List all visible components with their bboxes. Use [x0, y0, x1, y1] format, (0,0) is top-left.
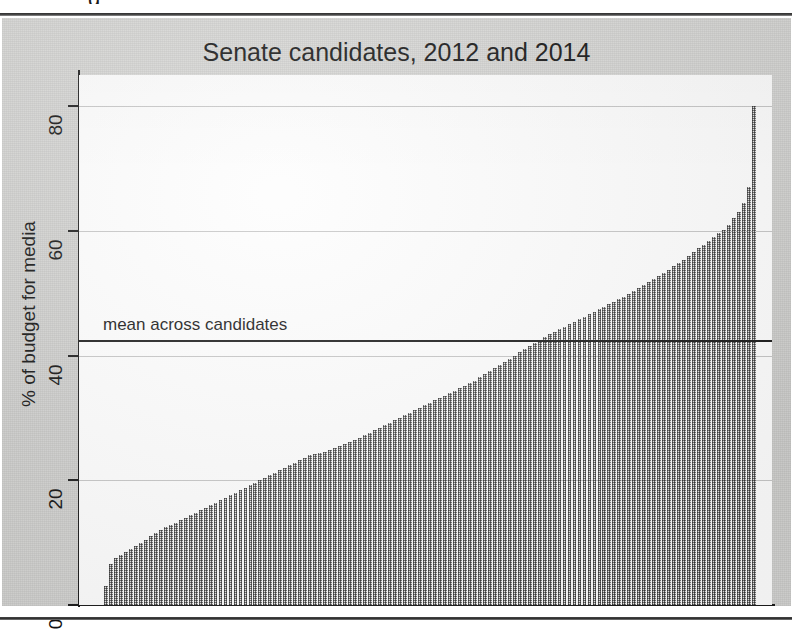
bar [513, 356, 517, 605]
bar [278, 470, 282, 605]
bar [164, 527, 168, 605]
bar [543, 337, 547, 605]
y-tick-60 [68, 230, 79, 232]
bar [333, 448, 337, 605]
bar [288, 465, 292, 605]
bar [637, 288, 641, 605]
bar [303, 458, 307, 605]
bar [622, 297, 626, 605]
bar [458, 388, 462, 605]
bar [548, 334, 552, 605]
bar [134, 546, 138, 605]
bar [468, 383, 472, 605]
bar [263, 478, 267, 605]
clipped-header-fragment: g [88, 0, 101, 4]
bar [328, 450, 332, 605]
bar [353, 440, 357, 605]
bar [598, 309, 602, 605]
bar [268, 475, 272, 605]
plot-area: mean across candidates [79, 75, 772, 605]
bar [503, 362, 507, 605]
bar [234, 493, 238, 605]
bar [244, 488, 248, 605]
bar [508, 359, 512, 605]
mean-line [79, 340, 772, 342]
bar [583, 317, 587, 605]
y-tick-0 [68, 604, 79, 606]
bar [119, 555, 123, 605]
bar [687, 256, 691, 605]
bar [393, 420, 397, 605]
bar [313, 454, 317, 605]
bar [368, 433, 372, 605]
bar [453, 391, 457, 605]
bar [124, 552, 128, 605]
bar [493, 368, 497, 605]
bar [642, 285, 646, 605]
bar [657, 276, 661, 605]
bar [602, 307, 606, 605]
bar [383, 425, 387, 605]
bar [179, 520, 183, 605]
bar [169, 525, 173, 605]
horizontal-rule-top [0, 13, 792, 16]
bar [702, 245, 706, 605]
bar [478, 377, 482, 605]
bar [159, 530, 163, 605]
bar [358, 438, 362, 605]
bar [283, 468, 287, 605]
bar [533, 343, 537, 605]
bar [737, 212, 741, 605]
bar [239, 490, 243, 605]
mean-line-label: mean across candidates [103, 315, 287, 335]
bar [528, 346, 532, 605]
horizontal-rule-bottom [0, 617, 792, 620]
bar [154, 533, 158, 605]
bar [747, 187, 751, 605]
bar [293, 463, 297, 605]
bar [408, 413, 412, 605]
bar [174, 523, 178, 605]
bar [538, 340, 542, 605]
bar [149, 536, 153, 605]
bar [732, 218, 736, 605]
bar [104, 586, 108, 605]
bar [144, 540, 148, 605]
bar [752, 106, 756, 605]
bar [428, 403, 432, 605]
bar [692, 252, 696, 605]
bar [373, 430, 377, 605]
figure-panel: Senate candidates, 2012 and 2014 % of bu… [2, 18, 791, 606]
bar [563, 327, 567, 605]
bar [423, 405, 427, 605]
bar [498, 365, 502, 605]
y-axis-title: % of budget for media [18, 204, 40, 424]
bar [463, 386, 467, 605]
bar [139, 543, 143, 605]
chart-title: Senate candidates, 2012 and 2014 [2, 38, 791, 67]
bar [707, 241, 711, 605]
bar [578, 319, 582, 605]
bar [209, 505, 213, 605]
bar [662, 273, 666, 605]
bar [672, 266, 676, 605]
bar [298, 460, 302, 605]
bar [588, 314, 592, 605]
bar [343, 444, 347, 605]
y-tick-20 [68, 479, 79, 481]
bar [129, 549, 133, 605]
bar [473, 381, 477, 605]
bar [388, 423, 392, 605]
bar [184, 518, 188, 605]
bar [433, 400, 437, 605]
bar [273, 473, 277, 605]
bar [617, 299, 621, 605]
bar [443, 396, 447, 606]
bar [363, 435, 367, 605]
bar [219, 500, 223, 605]
bar [258, 480, 262, 605]
bar [438, 398, 442, 605]
bar [348, 442, 352, 605]
bar [413, 410, 417, 605]
bar [553, 332, 557, 605]
